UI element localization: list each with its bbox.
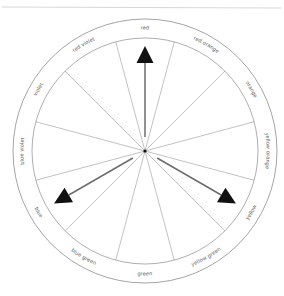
wheel-spoke xyxy=(145,151,174,260)
color-wheel-diagram: redred orangeorangeyellow orangeyellowye… xyxy=(0,0,284,296)
wheel-spoke xyxy=(145,122,254,151)
hue-label-blue: blue xyxy=(34,206,45,219)
hue-label-red: red xyxy=(141,24,150,30)
hue-label-yellow-green: yellow green xyxy=(190,245,222,267)
wheel-spoke xyxy=(65,71,145,151)
wheel-spoke xyxy=(36,151,145,180)
top-divider-rule xyxy=(2,7,281,8)
arrow-head xyxy=(54,188,73,204)
label-arc-path xyxy=(22,155,80,255)
label-arc-path xyxy=(149,216,249,274)
triad-arrows xyxy=(54,46,236,204)
wheel-center-hub xyxy=(143,149,146,152)
hue-label-yellow: yellow xyxy=(244,204,257,221)
label-arc-path xyxy=(210,155,268,255)
hue-label-blue-violet: blue violet xyxy=(18,137,25,165)
hue-label-blue-green: blue green xyxy=(70,247,97,266)
red-arrow xyxy=(137,46,154,137)
wheel-spoke xyxy=(36,122,145,151)
color-wheel-figure: redred orangeorangeyellow orangeyellowye… xyxy=(0,0,284,296)
arrow-head xyxy=(137,46,154,63)
arrow-shaft xyxy=(69,158,133,195)
label-arc-path xyxy=(210,47,268,147)
label-arc-path xyxy=(41,216,141,274)
wheel-spoke xyxy=(145,151,254,180)
hue-label-red-violet: red violet xyxy=(71,36,95,54)
arrow-shaft xyxy=(157,158,221,195)
label-arc-path xyxy=(22,47,80,147)
hue-label-red-orange: red orange xyxy=(193,35,221,55)
hue-label-orange: orange xyxy=(245,80,259,99)
hue-label-violet: violet xyxy=(32,81,44,96)
hue-label-yellow-orange: yellow orange xyxy=(264,132,271,169)
wheel-spoke xyxy=(116,151,145,260)
wheel-spoke xyxy=(145,71,225,151)
arrow-head xyxy=(217,188,236,204)
hue-label-green: green xyxy=(137,270,152,276)
